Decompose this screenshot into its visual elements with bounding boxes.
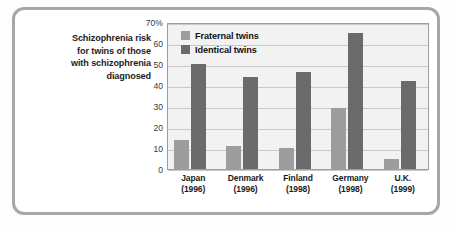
x-axis-category-name: Japan: [181, 173, 205, 183]
bar-group: [378, 24, 430, 169]
x-axis-category-year: (1998): [324, 184, 376, 195]
y-axis-tick-label: 10: [131, 144, 163, 154]
x-axis-category-year: (1998): [272, 184, 324, 195]
bar: [401, 81, 416, 169]
y-axis-tick-label: 0: [131, 165, 163, 175]
x-axis-category-name: Finland: [283, 173, 313, 183]
bar: [174, 140, 189, 169]
figure-root: Schizophrenia risk for twins of those wi…: [0, 0, 456, 231]
y-axis-tick-label: 30: [131, 102, 163, 112]
legend-label: Fraternal twins: [195, 31, 259, 41]
x-axis-tick-label: Germany(1998): [324, 173, 376, 195]
legend-swatch-icon: [181, 45, 190, 54]
x-axis: Japan(1996)Denmark(1996)Finland(1998)Ger…: [167, 173, 429, 203]
bar: [384, 159, 399, 170]
bar: [348, 33, 363, 170]
x-axis-tick-label: Denmark(1996): [219, 173, 271, 195]
legend-label: Identical twins: [195, 45, 257, 55]
bar-group: [273, 24, 325, 169]
gridline: [168, 170, 428, 171]
x-axis-category-year: (1999): [377, 184, 429, 195]
y-axis-tick-label: 70%: [131, 18, 163, 28]
x-axis-category-year: (1996): [167, 184, 219, 195]
x-axis-tick-label: Finland(1998): [272, 173, 324, 195]
bar: [296, 72, 311, 169]
x-axis-category-name: Germany: [332, 173, 368, 183]
y-axis-tick-label: 40: [131, 81, 163, 91]
y-axis-tick-label: 60: [131, 39, 163, 49]
plot-area: Fraternal twins Identical twins: [167, 23, 429, 170]
chart-legend: Fraternal twins Identical twins: [181, 30, 259, 58]
y-axis: 010203040506070%: [131, 23, 163, 170]
bar: [191, 64, 206, 169]
legend-swatch-icon: [181, 31, 190, 40]
y-axis-tick-label: 20: [131, 123, 163, 133]
bar: [279, 148, 294, 169]
x-axis-category-year: (1996): [219, 184, 271, 195]
chart-card: Schizophrenia risk for twins of those wi…: [12, 7, 440, 215]
plot-block: 010203040506070% Fraternal twins Identic…: [167, 23, 429, 204]
legend-item-identical: Identical twins: [181, 44, 259, 55]
bar: [243, 77, 258, 169]
x-axis-tick-label: U.K.(1999): [377, 173, 429, 195]
bar-group: [325, 24, 377, 169]
x-axis-category-name: Denmark: [228, 173, 264, 183]
bar: [226, 146, 241, 169]
x-axis-category-name: U.K.: [394, 173, 411, 183]
x-axis-tick-label: Japan(1996): [167, 173, 219, 195]
legend-item-fraternal: Fraternal twins: [181, 30, 259, 41]
y-axis-tick-label: 50: [131, 60, 163, 70]
bar: [331, 108, 346, 169]
